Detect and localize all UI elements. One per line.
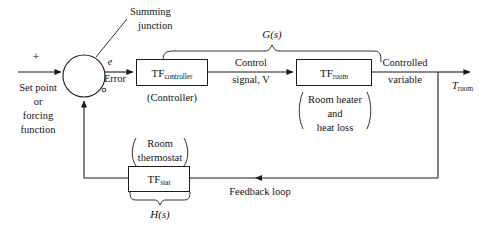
thermostat-caption-line2: thermostat (138, 152, 182, 164)
thermostat-block[interactable]: TFstat (128, 166, 190, 192)
minus-sign-marker (102, 88, 106, 92)
output-label: Troom (452, 80, 473, 94)
error-symbol: e (108, 56, 112, 68)
error-label: Error (104, 73, 126, 85)
feedback-loop-label: Feedback loop (229, 186, 291, 198)
control-signal-label-line1: Control (235, 57, 267, 69)
thermostat-caption-right-paren (184, 138, 188, 166)
input-label-line1: Set point (19, 82, 57, 94)
room-block-label: TFroom (320, 67, 348, 79)
controller-block-label: TFcontroller (152, 67, 193, 79)
thermostat-block-label: TFstat (148, 173, 171, 185)
controller-block-subscript: controller (164, 73, 192, 81)
forward-path-label: G(s) (262, 28, 282, 40)
feedback-path-brace (130, 192, 190, 205)
room-caption-line3: heat loss (317, 122, 353, 134)
room-block-subscript: room (333, 73, 348, 81)
input-label-line3: forcing (23, 110, 53, 122)
feedback-direction-arrowhead (255, 175, 262, 181)
input-label-line2: or (34, 96, 43, 108)
input-label-line4: function (21, 124, 56, 136)
output-label-subscript: room (458, 85, 473, 93)
controller-block[interactable]: TFcontroller (136, 59, 208, 86)
room-caption-right-paren (367, 92, 371, 129)
input-plus-sign: + (33, 52, 40, 64)
controlled-variable-label-line1: Controlled (383, 57, 428, 69)
room-caption-line2: and (327, 108, 342, 120)
controller-block-caption: (Controller) (147, 92, 197, 104)
summing-junction-circle (63, 55, 105, 97)
thermostat-block-subscript: stat (160, 179, 170, 187)
thermostat-caption-left-paren (132, 138, 136, 166)
control-signal-label-line2: signal, V (232, 74, 270, 86)
feedback-path-label: H(s) (150, 208, 170, 220)
summing-junction-annotation-line2: junction (138, 20, 172, 32)
room-caption-line1: Room heater (308, 94, 362, 106)
room-block[interactable]: TFroom (296, 59, 372, 86)
thermostat-caption-line1: Room (147, 138, 173, 150)
summing-junction-annotation-line1: Summing (130, 6, 171, 18)
controlled-variable-label-line2: variable (388, 74, 422, 86)
block-diagram-canvas: TFcontroller TFroom TFstat + Set point o… (0, 0, 495, 229)
room-caption-left-paren (299, 92, 303, 129)
output-label-main: T (452, 80, 458, 91)
summing-junction-leader (96, 19, 127, 57)
